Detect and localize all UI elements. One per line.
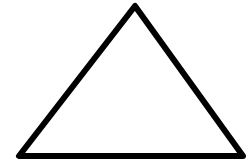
triangle-diagram xyxy=(0,0,251,167)
triangle-shape xyxy=(19,6,243,156)
